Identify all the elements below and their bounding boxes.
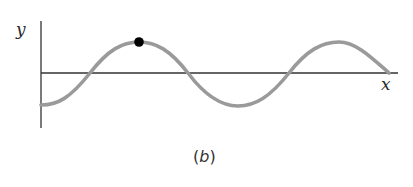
x-axis-label: x: [381, 74, 391, 94]
figure-caption: (b): [193, 147, 216, 166]
y-axis-label: y: [15, 19, 26, 39]
wave-curve: [41, 42, 389, 106]
wave-diagram: y x (b): [0, 0, 413, 187]
crest-marker-dot: [134, 37, 144, 47]
